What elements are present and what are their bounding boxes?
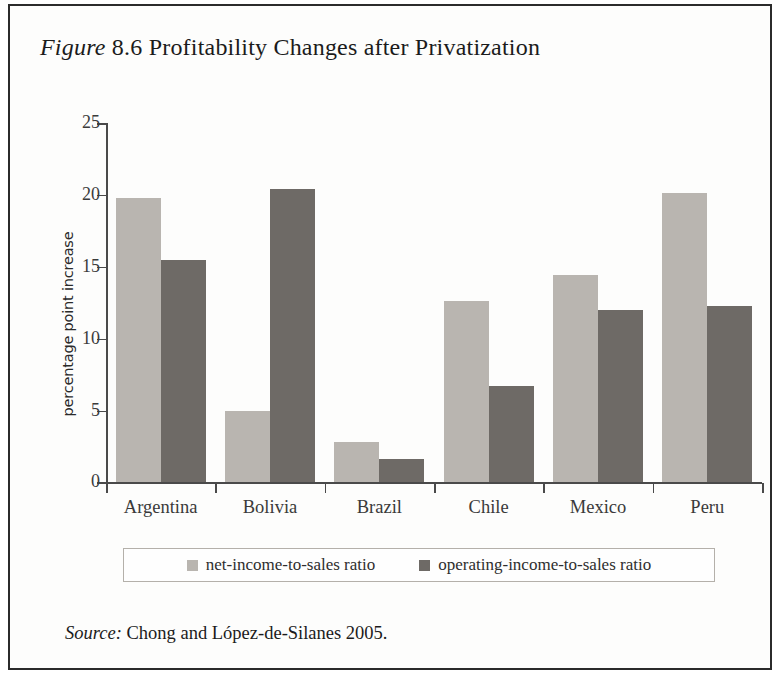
x-tick-mark [762,483,764,493]
category-label-brazil: Brazil [357,497,402,518]
bar [161,260,206,483]
bar [598,310,643,483]
plot-area: 0510152025 ArgentinaBoliviaBrazilChileMe… [106,123,762,484]
bar [379,459,424,482]
chart-legend: net-income-to-sales ratiooperating-incom… [123,548,715,582]
source-label: Source: [65,623,122,643]
x-tick-mark [325,483,327,493]
y-axis-title: percentage point increase [60,204,76,444]
x-tick-mark [653,483,655,493]
x-tick-mark [543,483,545,493]
y-tick-label: 25 [82,112,100,133]
bar [116,198,161,483]
legend-swatch-icon [419,560,430,571]
source-text: Chong and López-de-Silanes 2005. [126,623,387,643]
x-tick-mark [106,483,108,493]
bar [270,189,315,482]
legend-item: net-income-to-sales ratio [187,555,375,575]
legend-item: operating-income-to-sales ratio [419,555,651,575]
legend-swatch-icon [187,560,198,571]
bar [444,301,489,482]
bar [334,442,379,482]
y-tick-label: 5 [91,400,100,421]
source-note: Source: Chong and López-de-Silanes 2005. [65,623,387,644]
category-label-peru: Peru [690,497,724,518]
bar [225,411,270,483]
x-tick-mark [215,483,217,493]
legend-label: operating-income-to-sales ratio [438,555,651,575]
figure-frame: Figure 8.6 Profitability Changes after P… [8,4,772,670]
y-axis-line [106,123,108,485]
bar [553,275,598,482]
y-tick-label: 15 [82,256,100,277]
x-tick-mark [434,483,436,493]
category-label-mexico: Mexico [570,497,627,518]
y-tick-label: 10 [82,328,100,349]
category-label-chile: Chile [469,497,509,518]
y-tick-label: 20 [82,184,100,205]
legend-label: net-income-to-sales ratio [206,555,375,575]
category-label-argentina: Argentina [124,497,198,518]
bar [707,306,752,483]
bar [489,386,534,482]
y-tick-label: 0 [91,471,100,492]
bar [662,193,707,482]
category-label-bolivia: Bolivia [243,497,297,518]
